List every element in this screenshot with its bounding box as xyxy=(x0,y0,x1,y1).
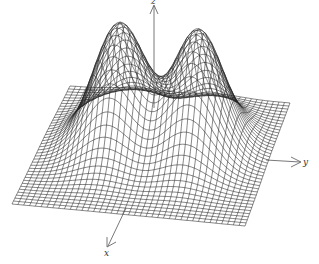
y-axis-label: y xyxy=(302,157,309,167)
wireframe-mesh xyxy=(12,22,290,226)
x-axis-label: x xyxy=(104,248,109,258)
mesh-line xyxy=(239,103,284,226)
mesh-line xyxy=(21,186,252,207)
mesh-line xyxy=(24,179,254,201)
mesh-line xyxy=(12,204,245,226)
mesh-line xyxy=(24,87,81,205)
y-axis: y xyxy=(266,157,309,167)
mesh-line xyxy=(56,56,279,133)
z-axis-label: z xyxy=(150,0,156,6)
mesh-line xyxy=(158,37,208,218)
mesh-line xyxy=(30,87,87,206)
surface-plot: z y x xyxy=(0,0,319,264)
mesh-line xyxy=(31,137,260,185)
surface-plot-figure: z y x xyxy=(0,0,319,264)
mesh-line xyxy=(18,86,76,204)
x-axis: x xyxy=(104,208,126,258)
mesh-line xyxy=(53,88,109,208)
